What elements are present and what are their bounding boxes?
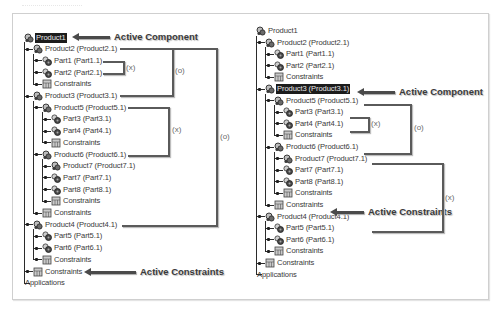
tree-connector [265,221,266,251]
tree-node-part[interactable]: Part8 (Part8.1) [283,176,344,187]
tree-node-part[interactable]: Part6 (Part6.1) [274,234,335,245]
tree-node-label: Part7 (Part7.1) [294,165,344,175]
expand-node-icon[interactable] [267,204,270,207]
constraints-icon [51,196,61,206]
tree-node-product[interactable]: Product5 (Product5.1) [42,102,127,113]
expand-node-icon[interactable] [35,235,38,238]
tree-node-part[interactable]: Part7 (Part7.1) [51,172,112,183]
expand-node-icon[interactable] [44,118,47,121]
expand-node-icon[interactable] [267,227,270,230]
part-gear-icon [51,126,61,136]
tree-connector [33,54,34,84]
tree-node-product[interactable]: Product2 (Product2.1) [265,37,350,48]
expand-node-icon[interactable] [276,169,279,172]
expand-node-icon[interactable] [258,88,261,91]
expand-node-icon[interactable] [44,200,47,203]
tree-node-label: Part8 (Part8.1) [294,177,344,187]
tree-node-product[interactable]: Product7 (Product7.1) [283,153,368,164]
expand-node-icon[interactable] [267,99,270,102]
tree-node-label: Part1 (Part1.1) [53,56,103,66]
expand-node-icon[interactable] [267,146,270,149]
expand-node-icon[interactable] [276,192,279,195]
arrow-icon [90,271,136,274]
tree-node-product[interactable]: Product5 (Product5.1) [274,95,359,106]
tree-node-constraints[interactable]: Constraints [42,208,92,219]
tree-node-part[interactable]: Part5 (Part5.1) [274,223,335,234]
tree-node-product[interactable]: Product1 [256,26,299,37]
top-edge-marks [22,0,82,6]
tree-node-product[interactable]: Product3 (Product3.1) [33,91,118,102]
expand-node-icon[interactable] [276,134,279,137]
tree-node-constraints[interactable]: Constraints [51,137,101,148]
callout-active-constraints: Active Constraints [140,266,224,277]
expand-node-icon[interactable] [44,188,47,191]
part-gear-icon [42,68,52,78]
tree-node-part[interactable]: Part6 (Part6.1) [42,243,103,254]
expand-node-icon[interactable] [35,106,38,109]
product-assembly-icon [265,84,275,94]
tree-node-constraints[interactable]: Constraints [51,196,101,207]
arrow-icon [363,91,395,94]
tree-node-part[interactable]: Part1 (Part1.1) [42,55,103,66]
tree-node-label: Part8 (Part8.1) [62,185,112,195]
tree-node-label: Part7 (Part7.1) [62,173,112,183]
expand-node-icon[interactable] [44,165,47,168]
product-assembly-icon [33,44,43,54]
tree-connector [33,101,34,213]
expand-node-icon[interactable] [258,41,261,44]
tree-node-applications[interactable]: Applications [24,278,66,289]
tree-node-part[interactable]: Part8 (Part8.1) [51,184,112,195]
expand-node-icon[interactable] [258,215,261,218]
tree-node-constraints[interactable]: Constraints [265,258,315,269]
expand-node-icon[interactable] [26,48,29,51]
tree-node-part[interactable]: Part4 (Part4.1) [51,126,112,137]
expand-node-icon[interactable] [44,130,47,133]
tree-node-product[interactable]: Product2 (Product2.1) [33,44,118,55]
tree-node-constraints[interactable]: Constraints [283,188,333,199]
tree-node-part[interactable]: Part3 (Part3.1) [283,107,344,118]
tree-node-product[interactable]: Product6 (Product6.1) [274,142,359,153]
tree-node-constraints[interactable]: Constraints [274,200,324,211]
expand-node-icon[interactable] [258,262,261,265]
tree-node-applications[interactable]: Applications [256,269,298,280]
expand-node-icon[interactable] [35,71,38,74]
expand-node-icon[interactable] [35,212,38,215]
tree-node-part[interactable]: Part4 (Part4.1) [283,118,344,129]
tree-node-constraints[interactable]: Constraints [42,79,92,90]
tree-node-product[interactable]: Product3 (Product3.1) [265,84,350,95]
tree-node-part[interactable]: Part2 (Part2.1) [42,67,103,78]
tree-node-label: Product7 (Product7.1) [294,154,368,164]
expand-node-icon[interactable] [276,111,279,114]
expand-node-icon[interactable] [276,157,279,160]
tree-node-label: Product2 (Product2.1) [276,38,350,48]
expand-node-icon[interactable] [35,83,38,86]
tree-node-constraints[interactable]: Constraints [42,254,92,265]
expand-node-icon[interactable] [26,223,29,226]
tree-node-part[interactable]: Part7 (Part7.1) [283,165,344,176]
tree-connector [33,229,34,259]
part-gear-icon [283,119,293,129]
tree-connector [256,36,257,275]
tree-node-part[interactable]: Part5 (Part5.1) [42,231,103,242]
product-assembly-icon [24,33,34,43]
expand-node-icon[interactable] [35,153,38,156]
expand-node-icon[interactable] [267,250,270,253]
expand-node-icon[interactable] [267,76,270,79]
tree-node-constraints[interactable]: Constraints [274,246,324,257]
tree-node-part[interactable]: Part1 (Part1.1) [274,49,335,60]
expand-node-icon[interactable] [35,247,38,250]
tree-node-part[interactable]: Part2 (Part2.1) [274,60,335,71]
tree-node-constraints[interactable]: Constraints [33,266,83,277]
tree-node-part[interactable]: Part3 (Part3.1) [51,114,112,125]
expand-node-icon[interactable] [26,95,29,98]
tree-node-product[interactable]: Product4 (Product4.1) [33,219,118,230]
tree-connector [265,94,266,205]
tree-node-constraints[interactable]: Constraints [274,72,324,83]
tree-node-constraints[interactable]: Constraints [283,130,333,141]
expand-node-icon[interactable] [267,53,270,56]
tree-node-label: Part5 (Part5.1) [53,231,103,241]
tree-node-product[interactable]: Product6 (Product6.1) [42,149,127,160]
expand-node-icon[interactable] [26,270,29,273]
part-gear-icon [274,61,284,71]
tree-node-product[interactable]: Product1 [24,32,67,43]
